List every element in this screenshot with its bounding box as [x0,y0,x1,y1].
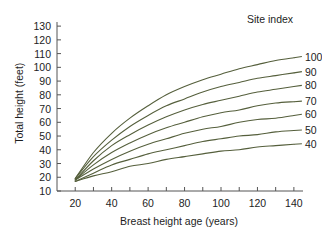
y-tick-label: 10 [17,186,51,197]
y-tick-label: 20 [17,172,51,183]
y-tick-label: 110 [17,49,51,60]
axis-lines [57,22,303,191]
curve-site-index-50 [75,131,294,182]
y-tick-label: 60 [17,117,51,128]
y-tick-label: 120 [17,35,51,46]
leader-40 [294,144,302,145]
x-tick-label: 140 [277,198,311,209]
leader-60 [294,114,302,115]
x-tick-label: 60 [131,198,165,209]
curve-label-80: 80 [305,80,317,91]
curve-label-50: 50 [305,125,317,136]
y-tick-label: 40 [17,145,51,156]
x-axis-title: Breast height age (years) [55,216,303,227]
x-tick-label: 100 [204,198,238,209]
y-tick-label: 50 [17,131,51,142]
y-axis-ticks [57,26,61,191]
leader-70 [294,101,302,102]
leader-90 [294,72,302,73]
x-tick-label: 80 [168,198,202,209]
curve-label-60: 60 [305,109,317,120]
chart-figure: Total height (feet) Breast height age (y… [0,0,322,236]
legend-title: Site index [247,14,293,25]
y-tick-label: 30 [17,159,51,170]
curve-label-90: 90 [305,67,317,78]
y-tick-label: 100 [17,62,51,73]
curve-label-40: 40 [305,139,317,150]
curve-label-leaders [294,57,302,145]
leader-80 [294,85,302,86]
site-index-curves [75,58,294,182]
curve-site-index-100 [75,58,294,179]
curve-site-index-40 [75,144,294,181]
y-tick-label: 130 [17,21,51,32]
leader-100 [294,57,302,58]
curve-site-index-90 [75,73,294,179]
x-tick-label: 20 [58,198,92,209]
x-axis-ticks [75,187,294,191]
curve-label-70: 70 [305,96,317,107]
y-tick-label: 90 [17,76,51,87]
y-tick-label: 80 [17,90,51,101]
curve-site-index-70 [75,102,294,180]
leader-50 [294,130,302,131]
y-tick-label: 70 [17,104,51,115]
x-tick-label: 40 [95,198,129,209]
curve-label-100: 100 [305,52,322,63]
x-tick-label: 120 [240,198,274,209]
